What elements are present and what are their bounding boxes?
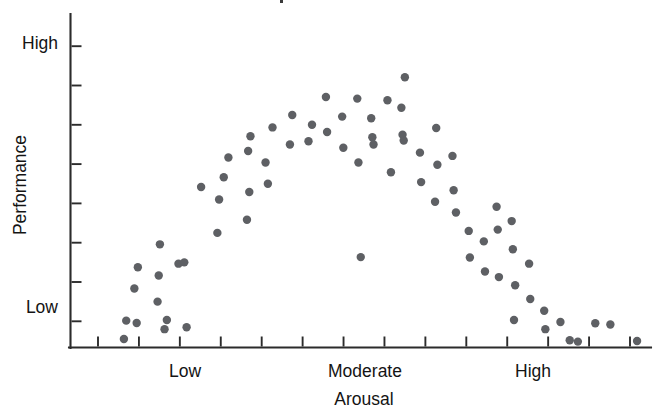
data-point [507, 217, 515, 225]
y-tick-label-high: High [22, 33, 58, 53]
data-point [304, 137, 312, 145]
data-point [244, 147, 252, 155]
data-point [338, 112, 346, 120]
x-axis-ticks [98, 337, 630, 347]
data-point [511, 281, 519, 289]
chart-canvas: High Low Performance Low Moderate High A… [0, 0, 657, 418]
data-point [525, 259, 533, 267]
data-point [156, 240, 164, 248]
data-point [134, 263, 142, 271]
data-point [452, 208, 460, 216]
data-point [130, 284, 138, 292]
data-point [339, 144, 347, 152]
data-point [367, 114, 375, 122]
data-point [526, 295, 534, 303]
data-point [155, 271, 163, 279]
data-point [369, 140, 377, 148]
data-point [215, 195, 223, 203]
data-point [213, 229, 221, 237]
data-point [417, 178, 425, 186]
x-tick-label-high: High [515, 361, 551, 381]
data-point [245, 188, 253, 196]
data-point [397, 104, 405, 112]
data-point [383, 96, 391, 104]
data-point [556, 318, 564, 326]
data-point [540, 307, 548, 315]
data-point [509, 245, 517, 253]
data-point [574, 337, 582, 345]
data-point [495, 273, 503, 281]
data-point [354, 158, 362, 166]
data-point [449, 186, 457, 194]
data-point [465, 227, 473, 235]
data-points-layer [120, 73, 642, 346]
data-point [268, 123, 276, 131]
data-point [591, 319, 599, 327]
data-point [401, 73, 409, 81]
data-point [416, 148, 424, 156]
data-point [480, 237, 488, 245]
data-point [541, 325, 549, 333]
data-point [322, 93, 330, 101]
y-axis-ticks [72, 46, 82, 321]
data-point [122, 316, 130, 324]
data-point [246, 132, 254, 140]
data-point [180, 258, 188, 266]
data-point [466, 253, 474, 261]
data-point [120, 335, 128, 343]
data-point [132, 319, 140, 327]
data-point [353, 94, 361, 102]
data-point [448, 152, 456, 160]
data-point [286, 140, 294, 148]
data-point [566, 336, 574, 344]
data-point [606, 320, 614, 328]
data-point [153, 297, 161, 305]
data-point [431, 198, 439, 206]
data-point [492, 202, 500, 210]
data-point [224, 153, 232, 161]
x-tick-label-moderate: Moderate [328, 361, 402, 381]
x-tick-label-low: Low [169, 361, 201, 381]
data-point [323, 128, 331, 136]
data-point [160, 325, 168, 333]
data-point [481, 267, 489, 275]
scatter-chart-figure: High Low Performance Low Moderate High A… [0, 0, 657, 418]
data-point [432, 124, 440, 132]
data-point [197, 183, 205, 191]
data-point [510, 316, 518, 324]
y-tick-label-low: Low [26, 297, 58, 317]
data-point [261, 158, 269, 166]
data-point [387, 168, 395, 176]
data-point [288, 111, 296, 119]
data-point [357, 253, 365, 261]
scan-artifact [280, 0, 283, 3]
data-point [433, 161, 441, 169]
y-axis-title: Performance [10, 135, 30, 235]
data-point [494, 225, 502, 233]
data-point [368, 133, 376, 141]
data-point [308, 121, 316, 129]
x-axis-title: Arousal [334, 389, 393, 409]
data-point [243, 216, 251, 224]
data-point [163, 316, 171, 324]
data-point [264, 180, 272, 188]
data-point [400, 136, 408, 144]
data-point [633, 337, 641, 345]
data-point [182, 323, 190, 331]
data-point [220, 173, 228, 181]
